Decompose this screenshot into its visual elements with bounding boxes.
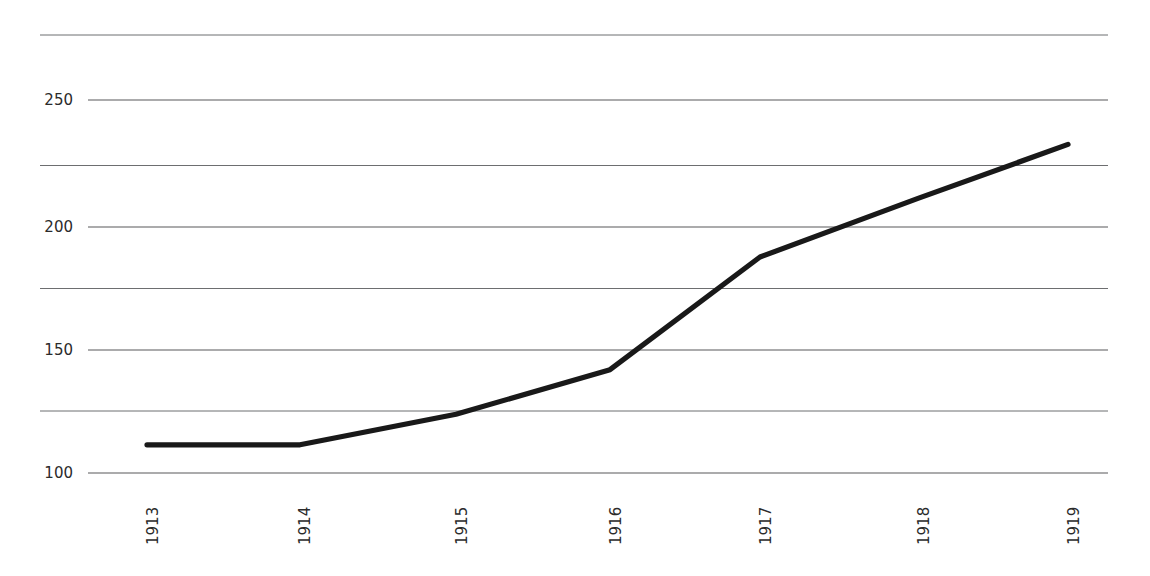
x-tick-label-1916: 1916 [607,507,625,545]
y-tick-label-200: 200 [44,218,73,236]
x-axis-tick-labels: 1913 1914 1915 1916 1917 1918 1919 [144,507,1083,545]
y-axis-tick-labels: 250 200 150 100 [44,91,73,482]
chart-canvas: 250 200 150 100 1913 1914 1915 1916 1917… [0,0,1150,576]
x-tick-label-1913: 1913 [144,507,162,545]
y-tick-label-100: 100 [44,464,73,482]
x-tick-label-1914: 1914 [296,507,314,545]
data-series-line [147,144,1068,444]
gridlines-major [88,100,1108,473]
x-tick-label-1915: 1915 [453,507,471,545]
line-chart: 250 200 150 100 1913 1914 1915 1916 1917… [0,0,1150,576]
y-tick-label-150: 150 [44,341,73,359]
x-tick-label-1917: 1917 [757,507,775,545]
y-tick-label-250: 250 [44,91,73,109]
gridlines-minor [40,35,1108,411]
x-tick-label-1919: 1919 [1065,507,1083,545]
x-tick-label-1918: 1918 [915,507,933,545]
